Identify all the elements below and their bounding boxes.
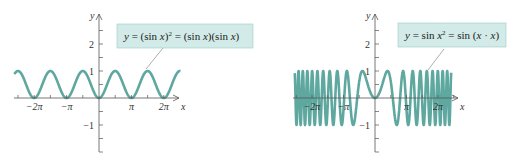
equation-text: y = (sin x)2 = (sin x)(sin x) [123, 30, 240, 43]
x-tick-label: π [129, 101, 135, 112]
chart-sin-of-x-squared: −2π−ππ2π21−1xy y = sin x2 = sin (x · x) [293, 10, 506, 152]
equation-callout: y = (sin x)2 = (sin x)(sin x) [117, 24, 253, 69]
y-tick-label: 1 [365, 66, 370, 77]
chart-sin-squared: −2π−ππ2π21−1xy y = (sin x)2 = (sin x)(si… [14, 10, 253, 152]
x-tick-label: 2π [159, 101, 170, 112]
y-tick-label: 1 [89, 66, 94, 77]
x-tick-label: −π [338, 101, 351, 112]
leader-line [428, 49, 444, 70]
x-tick-label: −2π [304, 101, 322, 112]
leader-line [146, 48, 163, 69]
equation-callout: y = sin x2 = sin (x · x) [398, 23, 506, 70]
x-axis-label: x [180, 101, 186, 112]
y-tick-label: −1 [83, 120, 94, 131]
y-tick-label: 2 [365, 39, 370, 50]
y-axis-label: y [89, 10, 95, 21]
y-tick-label: 2 [89, 39, 94, 50]
x-tick-label: −π [61, 101, 74, 112]
y-tick-label: −1 [359, 120, 370, 131]
equation-text: y = sin x2 = sin (x · x) [404, 29, 500, 42]
x-tick-label: −2π [26, 101, 44, 112]
y-axis-label: y [365, 10, 371, 21]
x-tick-label: 2π [433, 101, 444, 112]
x-axis-label: x [459, 101, 465, 112]
figure: −2π−ππ2π21−1xy y = (sin x)2 = (sin x)(si… [0, 0, 519, 165]
curve-sin-x-squared [14, 71, 180, 98]
